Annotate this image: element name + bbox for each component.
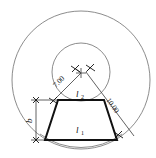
tick-slash-outer-top (86, 64, 95, 71)
drawing-canvas: 7.00 10.00 (0, 0, 156, 158)
edge-label-l2: l 2 (76, 89, 84, 100)
tick-slash-inner (71, 65, 80, 72)
dimension-label-height-b: b (24, 118, 34, 123)
technical-drawing-figure: 7.00 10.00 (0, 0, 156, 158)
dimension-label-radius-inner: 7.00 (51, 74, 67, 90)
edge-label-l2-subscript: 2 (81, 94, 84, 100)
edge-label-l2-symbol: l (76, 89, 79, 99)
edge-label-l1: l 1 (76, 125, 84, 136)
outer-circle (12, 11, 150, 149)
edge-label-l1-subscript: 1 (81, 130, 84, 136)
edge-label-l1-symbol: l (76, 125, 79, 135)
